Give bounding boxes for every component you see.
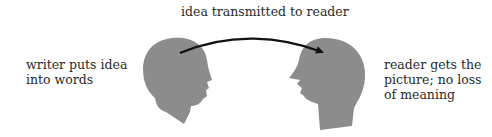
diagram-canvas <box>0 0 492 137</box>
reader-head-icon <box>289 38 365 130</box>
writer-head-icon <box>143 38 212 124</box>
